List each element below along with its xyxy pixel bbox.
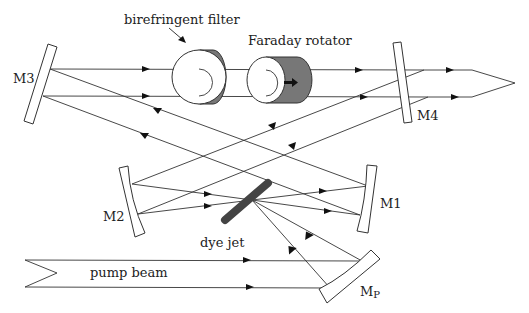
faraday-rotator xyxy=(247,57,312,103)
arrow-icon xyxy=(142,93,150,99)
pump-beam-tail xyxy=(25,260,57,287)
label-pump-beam: pump beam xyxy=(90,265,168,280)
arrow-icon xyxy=(319,188,327,194)
label-m4: M4 xyxy=(417,108,439,123)
label-birefringent-filter: birefringent filter xyxy=(124,12,240,27)
arrow-icon xyxy=(153,108,162,114)
arrow-icon xyxy=(285,243,297,255)
arrow-icon xyxy=(243,257,251,263)
label-dye-jet: dye jet xyxy=(200,235,245,250)
ring-laser-diagram: birefringent filter Faraday rotator M3 M… xyxy=(0,0,529,313)
mirror-m1 xyxy=(357,165,377,233)
arrow-icon xyxy=(451,94,459,100)
pump-beam xyxy=(25,200,362,290)
arrow-icon xyxy=(140,133,149,139)
label-m3: M3 xyxy=(13,71,35,86)
label-mp-main: M xyxy=(360,284,373,299)
arrow-icon xyxy=(204,191,212,197)
filter-pointer xyxy=(169,28,186,43)
mirror-m2 xyxy=(119,166,145,237)
label-mp: MP xyxy=(360,284,380,300)
arrow-icon xyxy=(204,203,212,209)
arrow-icon xyxy=(446,67,454,73)
arrow-icon xyxy=(324,208,332,214)
output-beam-tip xyxy=(472,70,515,97)
arrow-icon xyxy=(142,66,150,72)
label-faraday-rotator: Faraday rotator xyxy=(248,33,352,48)
arrow-icon xyxy=(288,142,296,150)
label-m2: M2 xyxy=(103,209,125,224)
birefringent-filter xyxy=(172,50,226,104)
arrow-icon xyxy=(268,122,276,130)
mirror-m4 xyxy=(393,42,412,123)
arrow-icon xyxy=(246,284,254,290)
arrow-icon xyxy=(355,67,363,73)
label-mp-subscript: P xyxy=(373,289,380,300)
label-m1: M1 xyxy=(380,196,402,211)
